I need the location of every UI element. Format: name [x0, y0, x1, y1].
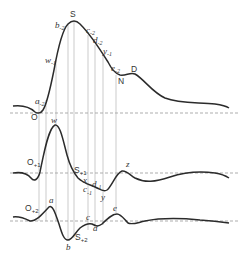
curve-original — [13, 21, 229, 113]
label-a: a — [49, 195, 54, 205]
waveform-diagram: O a-2 w-1 b-2 S c-2 d-2 y-1 e-2 N D O+1 … — [0, 0, 240, 261]
label-D: D — [131, 64, 137, 74]
label-a-m2: a-2 — [35, 96, 45, 107]
label-N: N — [118, 76, 124, 86]
curve-first-derivative — [13, 125, 229, 191]
label-b-m2: b-2 — [55, 20, 65, 31]
label-b: b — [66, 242, 71, 252]
label-S: S — [70, 9, 76, 19]
label-w: w — [51, 115, 57, 125]
label-O-p2: O+2 — [25, 203, 39, 214]
label-d-m2: d-2 — [93, 35, 103, 46]
label-y: y — [100, 192, 105, 202]
label-w-m1: w-1 — [45, 55, 56, 66]
label-e: e — [113, 203, 117, 213]
label-y-m1: y-1 — [102, 46, 112, 57]
label-c: c — [86, 212, 90, 222]
label-d-m1: d-1 — [92, 179, 102, 190]
labels-original: O a-2 w-1 b-2 S c-2 d-2 y-1 e-2 N D — [31, 9, 137, 122]
label-S-p2: S+2 — [75, 232, 88, 243]
label-O: O — [31, 112, 38, 122]
curve-second-derivative — [13, 207, 229, 240]
label-z: z — [125, 159, 130, 169]
label-d: d — [93, 223, 98, 233]
label-e-m2: e-2 — [111, 63, 120, 74]
